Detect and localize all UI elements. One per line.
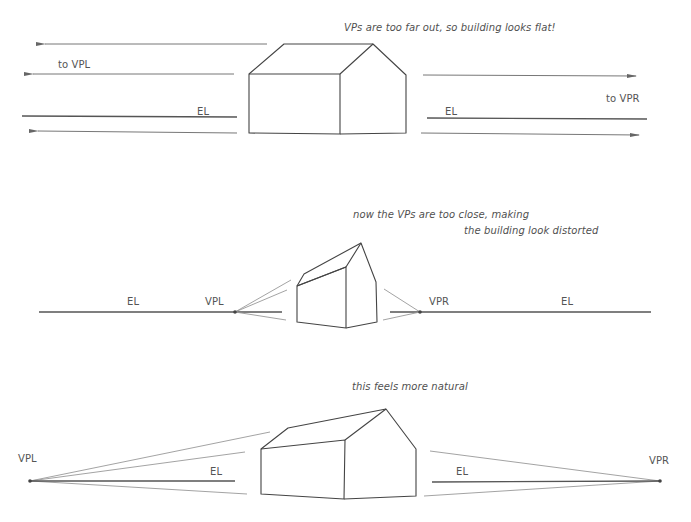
perspective-diagram	[0, 0, 691, 522]
line-to-vpr-base	[421, 133, 639, 135]
label-eye-level-right: EL	[445, 106, 457, 118]
line-to-vpl-base	[38, 131, 237, 133]
label-vpl: VPL	[18, 453, 37, 465]
label-eye-level-left: EL	[127, 296, 139, 308]
panel-too-far	[22, 44, 647, 135]
panel-natural	[28, 409, 662, 499]
caption-too-close-line2: the building look distorted	[464, 225, 598, 237]
label-eye-level-left: EL	[210, 466, 222, 478]
eye-level-line-right	[432, 481, 660, 482]
caption-too-close-line1: now the VPs are too close, making	[353, 209, 529, 221]
vpl-rays	[30, 432, 270, 494]
building-distorted	[297, 243, 377, 328]
vpl-point	[233, 310, 237, 314]
label-eye-level-right: EL	[561, 296, 573, 308]
eye-level-line-right	[427, 118, 647, 119]
label-vpr: VPR	[429, 296, 449, 308]
label-to-vpr: to VPR	[606, 93, 640, 105]
vpl-rays	[235, 280, 291, 320]
vpr-point	[658, 479, 662, 483]
label-eye-level-right: EL	[456, 466, 468, 478]
label-to-vpl: to VPL	[58, 59, 90, 71]
vpl-point	[28, 479, 32, 483]
label-eye-level-left: EL	[197, 106, 209, 118]
building-flat	[249, 44, 406, 134]
vpr-point	[418, 310, 422, 314]
line-to-vpr-eave	[423, 75, 636, 76]
label-vpr: VPR	[649, 455, 669, 467]
label-vpl: VPL	[205, 296, 224, 308]
caption-natural: this feels more natural	[352, 381, 468, 393]
vpr-rays	[383, 289, 420, 320]
building-natural	[261, 409, 416, 499]
panel-too-close	[39, 243, 651, 328]
caption-too-far: VPs are too far out, so building looks f…	[344, 22, 556, 34]
